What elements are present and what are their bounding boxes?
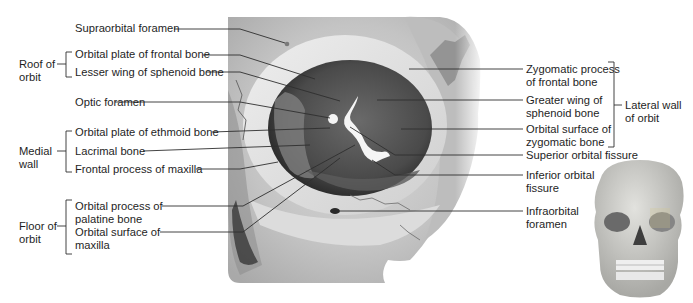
label-line-2: maxilla	[75, 239, 160, 252]
group-line-1: Roof of	[19, 58, 55, 71]
label-inferior-orbital-fissure: Inferior orbital fissure	[526, 169, 594, 195]
label-line-2: zygomatic bone	[526, 136, 611, 149]
group-lateral-wall-of-orbit: Lateral wall of orbit	[625, 99, 682, 125]
group-line-2: of orbit	[625, 112, 682, 125]
group-medial-wall: Medial wall	[19, 145, 52, 171]
orbit-region-image	[228, 17, 485, 283]
label-frontal-process-maxilla: Frontal process of maxilla	[75, 163, 202, 176]
label-orbital-surface-zygomatic-bone: Orbital surface of zygomatic bone	[526, 123, 611, 149]
label-lesser-wing-sphenoid-bone: Lesser wing of sphenoid bone	[75, 66, 224, 79]
label-greater-wing-sphenoid-bone: Greater wing of sphenoid bone	[526, 94, 602, 120]
group-line-2: orbit	[19, 71, 55, 84]
label-zygomatic-process-frontal-bone: Zygomatic process of frontal bone	[526, 63, 620, 89]
label-line-1: Orbital surface of	[75, 226, 160, 239]
label-line-1: Orbital surface of	[526, 123, 611, 136]
label-line-1: Inferior orbital	[526, 169, 594, 182]
label-lacrimal-bone: Lacrimal bone	[75, 145, 145, 158]
label-line-2: of frontal bone	[526, 76, 620, 89]
group-line-1: Medial	[19, 145, 52, 158]
label-line-2: fissure	[526, 182, 594, 195]
label-line-2: foramen	[526, 218, 579, 231]
group-line-1: Lateral wall	[625, 99, 682, 112]
label-orbital-plate-ethmoid-bone: Orbital plate of ethmoid bone	[75, 126, 219, 139]
label-line-1: Infraorbital	[526, 205, 579, 218]
group-line-2: wall	[19, 158, 52, 171]
label-line-1: Orbital process of	[75, 200, 163, 213]
label-line-2: sphenoid bone	[526, 107, 602, 120]
group-line-1: Floor of	[19, 220, 57, 233]
group-roof-of-orbit: Roof of orbit	[19, 58, 55, 84]
group-line-2: orbit	[19, 233, 57, 246]
group-floor-of-orbit: Floor of orbit	[19, 220, 57, 246]
label-orbital-plate-frontal-bone: Orbital plate of frontal bone	[75, 48, 210, 61]
label-line-1: Zygomatic process	[526, 63, 620, 76]
label-infraorbital-foramen: Infraorbital foramen	[526, 205, 579, 231]
label-superior-orbital-fissure: Superior orbital fissure	[526, 149, 638, 162]
skull-thumbnail	[594, 160, 683, 298]
label-supraorbital-foramen: Supraorbital foramen	[75, 22, 179, 35]
label-orbital-process-palatine-bone: Orbital process of palatine bone	[75, 200, 163, 226]
label-line-2: palatine bone	[75, 213, 163, 226]
label-optic-foramen: Optic foramen	[75, 96, 145, 109]
label-orbital-surface-maxilla: Orbital surface of maxilla	[75, 226, 160, 252]
label-line-1: Greater wing of	[526, 94, 602, 107]
